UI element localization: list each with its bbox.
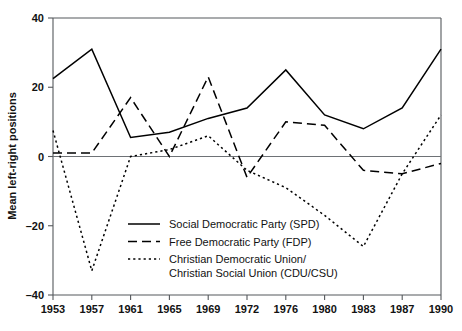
line-chart-canvas: 40200–20–40 1953195719611965196919721976…	[0, 0, 462, 331]
y-tick-label: 40	[32, 12, 44, 24]
x-tick-label: 1957	[80, 303, 104, 315]
x-tick-label: 1965	[157, 303, 181, 315]
y-axis-title: Mean left-right positions	[6, 92, 18, 220]
x-tick-label: 1987	[390, 303, 414, 315]
x-tick-label: 1961	[118, 303, 142, 315]
x-tick-label: 1976	[274, 303, 298, 315]
x-tick-label: 1980	[312, 303, 336, 315]
chart-legend: Social Democratic Party (SPD)Free Democr…	[128, 218, 338, 279]
legend-label-fdp: Free Democratic Party (FDP)	[169, 236, 311, 248]
legend-label-cdu: Christian Democratic Union/	[169, 253, 307, 265]
legend-label-cdu-line2: Christian Social Union (CDU/CSU)	[169, 267, 338, 279]
x-axis-ticks: 1953195719611965196919721976198019831987…	[41, 295, 453, 315]
y-tick-label: 20	[32, 81, 44, 93]
y-tick-label: 0	[38, 151, 44, 163]
x-tick-label: 1990	[429, 303, 453, 315]
y-tick-label: –40	[26, 289, 44, 301]
y-axis-ticks: 40200–20–40	[26, 12, 53, 301]
x-tick-label: 1983	[351, 303, 375, 315]
legend-label-spd: Social Democratic Party (SPD)	[169, 218, 319, 230]
y-tick-label: –20	[26, 220, 44, 232]
chart-figure: 40200–20–40 1953195719611965196919721976…	[0, 0, 462, 331]
x-tick-label: 1969	[196, 303, 220, 315]
x-tick-label: 1972	[235, 303, 259, 315]
x-tick-label: 1953	[41, 303, 65, 315]
